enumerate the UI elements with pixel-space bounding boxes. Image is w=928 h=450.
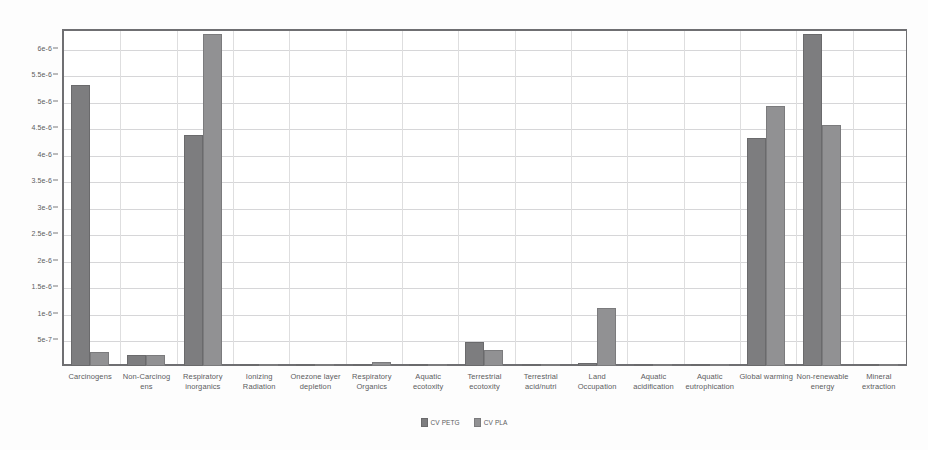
gridline-horizontal	[64, 182, 906, 183]
x-axis-tick-label: Respiratory Organics	[344, 372, 400, 392]
gridline-vertical	[177, 31, 178, 364]
x-axis: CarcinogensNon-Carcinog ensRespiratory i…	[62, 372, 907, 418]
y-axis: 5e-71e-61.5e-62e-62.5e-63e-63.5e-64e-64.…	[0, 29, 58, 366]
y-axis-tick-label: 4e-6	[38, 150, 52, 157]
y-axis-tick-label: 2.5e-6	[32, 230, 52, 237]
gridline-vertical	[289, 31, 290, 364]
plot-area	[62, 29, 907, 366]
gridline-horizontal	[64, 262, 906, 263]
legend-item[interactable]: CV PLA	[474, 418, 508, 427]
legend-item[interactable]: CV PETG	[421, 418, 460, 427]
y-axis-tick-label: 3.5e-6	[32, 177, 52, 184]
legend-swatch-icon	[421, 418, 428, 427]
y-axis-tick-label: 1e-6	[38, 309, 52, 316]
gridline-vertical	[853, 31, 854, 364]
y-axis-tick-mark	[53, 286, 58, 287]
y-axis-tick-label: 4.5e-6	[32, 124, 52, 131]
gridline-vertical	[684, 31, 685, 364]
y-axis-tick-label: 2e-6	[38, 256, 52, 263]
y-axis-tick-mark	[53, 127, 58, 128]
y-axis-tick-mark	[53, 47, 58, 48]
y-axis-tick-mark	[53, 180, 58, 181]
y-axis-tick-label: 6e-6	[38, 44, 52, 51]
gridline-vertical	[571, 31, 572, 364]
y-axis-tick-mark	[53, 74, 58, 75]
gridline-vertical	[458, 31, 459, 364]
gridline-horizontal	[64, 103, 906, 104]
gridline-vertical	[796, 31, 797, 364]
x-axis-tick-label: Global warming	[738, 372, 794, 382]
legend: CV PETGCV PLA	[0, 418, 928, 427]
gridline-vertical	[402, 31, 403, 364]
gridline-vertical	[627, 31, 628, 364]
gridline-vertical	[120, 31, 121, 364]
gridline-horizontal	[64, 315, 906, 316]
y-axis-tick-mark	[53, 100, 58, 101]
y-axis-tick-mark	[53, 259, 58, 260]
y-axis-tick-label: 1.5e-6	[32, 283, 52, 290]
y-axis-tick-mark	[53, 153, 58, 154]
x-axis-tick-label: Terrestrial acid/nutri	[513, 372, 569, 392]
x-axis-tick-label: Ionizing Radiation	[231, 372, 287, 392]
gridline-horizontal	[64, 76, 906, 77]
x-axis-tick-label: Terrestrial ecotoxity	[456, 372, 512, 392]
gridline-vertical	[515, 31, 516, 364]
y-axis-tick-mark	[53, 339, 58, 340]
gridline-horizontal	[64, 235, 906, 236]
gridline-vertical	[740, 31, 741, 364]
y-axis-tick-label: 3e-6	[38, 203, 52, 210]
x-axis-tick-label: Carcinogens	[62, 372, 118, 382]
y-axis-tick-mark	[53, 312, 58, 313]
bar-chart: 5e-71e-61.5e-62e-62.5e-63e-63.5e-64e-64.…	[0, 0, 928, 450]
y-axis-tick-mark	[53, 206, 58, 207]
legend-swatch-icon	[474, 418, 481, 427]
gridline-horizontal	[64, 129, 906, 130]
y-axis-tick-mark	[53, 233, 58, 234]
x-axis-tick-label: Land Occupation	[569, 372, 625, 392]
x-axis-tick-label: Onezone layer depletion	[287, 372, 343, 392]
legend-label: CV PLA	[484, 419, 508, 426]
y-axis-tick-label: 5.5e-6	[32, 71, 52, 78]
y-axis-tick-label: 5e-6	[38, 97, 52, 104]
gridline-horizontal	[64, 156, 906, 157]
x-axis-tick-label: Respiratory inorganics	[175, 372, 231, 392]
gridline-vertical	[346, 31, 347, 364]
x-axis-tick-label: Non-Carcinog ens	[118, 372, 174, 392]
gridline-horizontal	[64, 50, 906, 51]
x-axis-tick-label: Mineral extraction	[851, 372, 907, 392]
x-axis-tick-label: Aquatic acidification	[625, 372, 681, 392]
gridline-horizontal	[64, 341, 906, 342]
gridline-horizontal	[64, 209, 906, 210]
x-axis-tick-label: Aquatic ecotoxity	[400, 372, 456, 392]
gridline-vertical	[233, 31, 234, 364]
gridline-horizontal	[64, 288, 906, 289]
x-axis-tick-label: Non-renewable energy	[794, 372, 850, 392]
y-axis-tick-label: 5e-7	[38, 336, 52, 343]
x-axis-tick-label: Aquatic eutrophication	[682, 372, 738, 392]
legend-label: CV PETG	[431, 419, 460, 426]
